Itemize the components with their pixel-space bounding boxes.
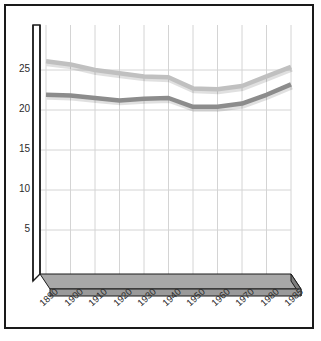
y-tick-label: 10 bbox=[8, 183, 30, 194]
y-tick-label: 15 bbox=[8, 143, 30, 154]
line-chart-3d bbox=[6, 6, 316, 331]
y-tick-label: 20 bbox=[8, 103, 30, 114]
chart-frame: 510152025 189019001910192019301940195019… bbox=[4, 4, 314, 329]
y-axis-post bbox=[33, 25, 40, 281]
plot-stage: 510152025 189019001910192019301940195019… bbox=[6, 6, 316, 331]
gridlines-horizontal bbox=[40, 70, 291, 230]
y-tick-label: 5 bbox=[8, 223, 30, 234]
y-tick-label: 25 bbox=[8, 63, 30, 74]
